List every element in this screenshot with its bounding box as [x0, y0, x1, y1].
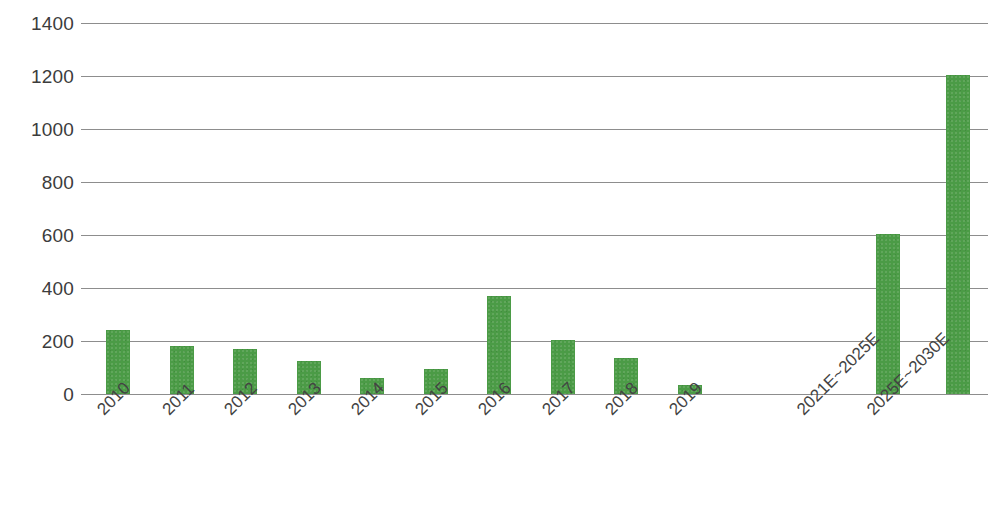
y-axis-tick-label: 400 [6, 279, 74, 298]
bar-group [81, 23, 988, 394]
y-axis-tick-label: 200 [6, 332, 74, 351]
y-axis-tick-label: 1000 [6, 120, 74, 139]
bar [946, 75, 970, 394]
x-axis-tick-label-group: 2010201120122013201420152016201720182019… [0, 394, 988, 529]
y-axis-tick-label: 600 [6, 226, 74, 245]
bar-chart: 0200400600800100012001400 20102011201220… [0, 0, 988, 529]
y-axis-tick-label: 800 [6, 173, 74, 192]
y-axis-tick-label: 1400 [6, 14, 74, 33]
y-axis-tick-label: 1200 [6, 67, 74, 86]
